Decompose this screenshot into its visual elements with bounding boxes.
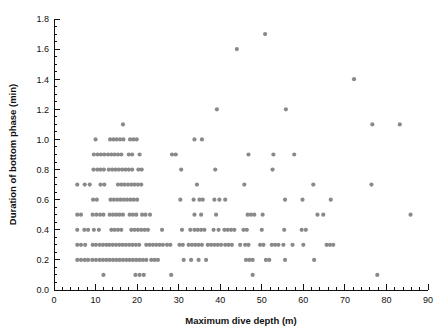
data-point [138,273,142,277]
data-point [212,198,216,202]
data-point [370,122,374,126]
scatter-plot-svg: 01020304050607080900.00.20.40.60.81.01.2… [0,0,445,333]
data-point [260,228,264,232]
data-point [102,167,106,171]
data-point [246,243,250,247]
data-point [135,198,139,202]
data-point [91,167,95,171]
data-point [270,167,274,171]
x-axis-tick-label: 30 [174,295,184,305]
data-point [192,198,196,202]
data-point [86,258,90,262]
x-axis-tick-label: 90 [423,295,433,305]
data-point [232,228,236,232]
data-point [168,243,172,247]
data-point [192,213,196,217]
data-point [235,47,239,51]
data-point [189,258,193,262]
data-point [94,213,98,217]
data-point [119,228,123,232]
data-point [79,243,83,247]
y-axis-tick-label: 0.6 [36,195,49,205]
x-axis-title: Maximum dive depth (m) [185,315,296,326]
data-point [121,122,125,126]
data-point [195,183,199,187]
data-point [174,152,178,156]
data-point [139,183,143,187]
data-point [261,243,265,247]
x-axis-tick-label: 0 [51,295,56,305]
data-point [312,258,316,262]
data-point [94,243,98,247]
data-point [300,228,304,232]
data-point [315,213,319,217]
x-axis-tick-label: 70 [340,295,350,305]
data-point [95,198,99,202]
data-point [199,213,203,217]
data-point [321,213,325,217]
scatter-plot-figure: 01020304050607080900.00.20.40.60.81.01.2… [0,0,445,333]
data-point [242,183,246,187]
data-point [86,228,90,232]
data-point [92,228,96,232]
data-point [75,228,79,232]
data-point [156,258,160,262]
data-point [83,183,87,187]
data-point [138,152,142,156]
y-axis-tick-label: 0.8 [36,165,49,175]
data-point [369,183,373,187]
data-point [261,213,265,217]
data-point [101,213,105,217]
data-point [92,152,96,156]
x-axis-tick-label: 50 [257,295,267,305]
data-point [142,273,146,277]
x-axis-tick-label: 40 [215,295,225,305]
data-point [292,152,296,156]
data-point [311,183,315,187]
data-point [211,228,215,232]
data-point [217,198,221,202]
data-point [144,258,148,262]
data-point [170,152,174,156]
data-point [79,213,83,217]
data-point [134,213,138,217]
data-point [75,258,79,262]
data-point [135,137,139,141]
data-point [94,258,98,262]
data-point [79,258,83,262]
data-point [130,152,134,156]
data-point [283,198,287,202]
data-point [75,183,79,187]
data-point [83,243,87,247]
data-point [238,243,242,247]
data-point [160,228,164,232]
data-point [214,213,218,217]
data-point [276,243,280,247]
data-point [178,198,182,202]
data-point [97,228,101,232]
data-point [91,213,95,217]
data-point [90,258,94,262]
data-point [181,243,185,247]
data-point [91,198,95,202]
data-point [230,243,234,247]
data-point [182,258,186,262]
y-axis-tick-label: 0.2 [36,255,49,265]
data-point [282,228,286,232]
data-point [201,198,205,202]
data-point [102,152,106,156]
data-point [121,213,125,217]
data-point [188,228,192,232]
data-point [375,273,379,277]
data-point [283,258,287,262]
data-point [329,198,333,202]
x-axis-tick-label: 10 [91,295,101,305]
data-point [93,137,97,141]
y-axis-tick-label: 1.6 [36,44,49,54]
data-point [121,137,125,141]
data-point [75,213,79,217]
data-point [245,228,249,232]
data-point [252,213,256,217]
data-point [204,258,208,262]
y-axis-tick-label: 0.0 [36,285,49,295]
